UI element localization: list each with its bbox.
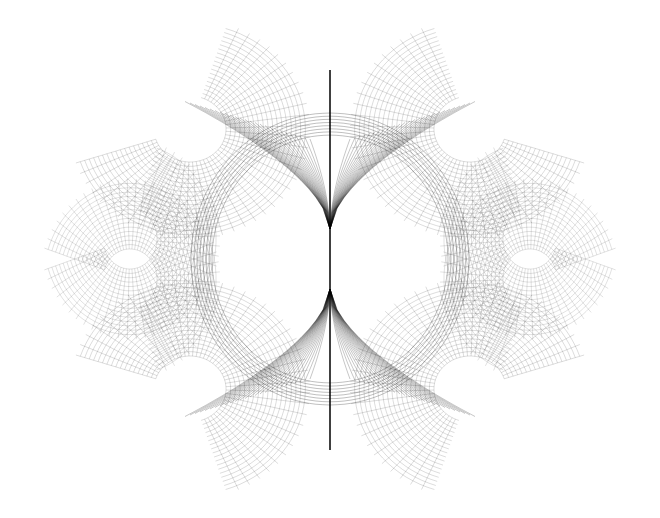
wireframe-surface-image (0, 0, 660, 518)
wireframe-surface (0, 0, 660, 518)
